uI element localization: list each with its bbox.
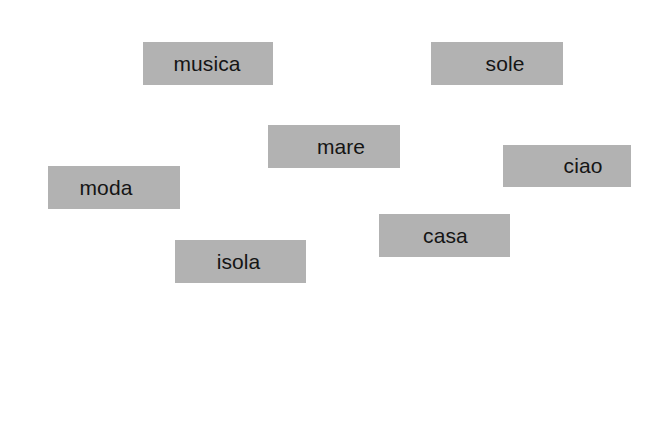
word-tile-label: musica: [173, 53, 240, 74]
word-tile-label: moda: [80, 177, 133, 198]
word-tile-moda[interactable]: moda: [48, 166, 180, 209]
word-tile-sole[interactable]: sole: [431, 42, 563, 85]
word-tile-casa[interactable]: casa: [379, 214, 510, 257]
word-tile-mare[interactable]: mare: [268, 125, 400, 168]
word-tile-label: isola: [217, 251, 261, 272]
solution-row: Soluzione:: [0, 352, 672, 408]
word-tile-ciao[interactable]: ciao: [503, 145, 631, 187]
word-tile-label: casa: [423, 225, 468, 246]
word-tile-label: mare: [317, 136, 365, 157]
worksheet-canvas: musicasolemareciaomodacasaisola Soluzion…: [0, 0, 672, 422]
word-tile-label: ciao: [564, 155, 603, 176]
word-tile-isola[interactable]: isola: [175, 240, 306, 283]
word-tile-musica[interactable]: musica: [143, 42, 273, 85]
word-tile-label: sole: [486, 53, 525, 74]
